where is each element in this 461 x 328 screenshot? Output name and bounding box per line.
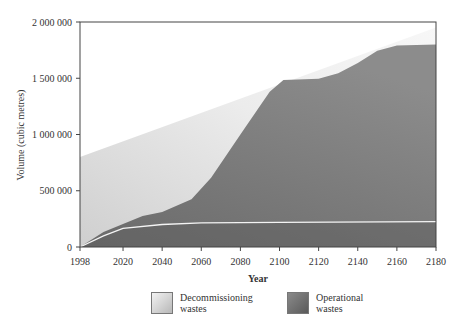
decommissioning-swatch — [151, 292, 173, 314]
legend-label-line1: Operational — [316, 292, 396, 303]
x-axis: 1998202020402060208021002120214021602180 — [70, 247, 446, 267]
y-tick-label: 500 000 — [40, 185, 73, 196]
legend-label-line2: wastes — [180, 303, 260, 314]
y-tick-label: 1 500 000 — [32, 73, 72, 84]
legend-label-line1: Decommissioning — [180, 292, 260, 303]
y-tick-label: 1 000 000 — [32, 129, 72, 140]
x-tick-label: 2160 — [387, 256, 407, 267]
y-axis: 0500 0001 000 0001 500 0002 000 000 — [32, 17, 80, 253]
x-tick-label: 2140 — [348, 256, 368, 267]
legend: Decommissioning wastes Operational waste… — [0, 290, 461, 320]
x-tick-label: 2100 — [270, 256, 290, 267]
y-tick-label: 2 000 000 — [32, 17, 72, 28]
x-axis-title: Year — [248, 273, 269, 284]
x-tick-label: 2020 — [113, 256, 133, 267]
x-tick-label: 1998 — [70, 256, 90, 267]
y-tick-label: 0 — [67, 242, 72, 253]
x-tick-label: 2060 — [191, 256, 211, 267]
legend-label-operational: Operational wastes — [316, 292, 396, 314]
x-tick-label: 2080 — [230, 256, 250, 267]
x-tick-label: 2040 — [152, 256, 172, 267]
x-tick-label: 2180 — [426, 256, 446, 267]
operational-swatch — [287, 292, 309, 314]
legend-item-operational: Operational wastes — [287, 292, 396, 314]
legend-label-decommissioning: Decommissioning wastes — [180, 292, 260, 314]
area-chart: 0500 0001 000 0001 500 0002 000 000 1998… — [0, 0, 461, 290]
legend-label-line2: wastes — [316, 303, 396, 314]
legend-item-decommissioning: Decommissioning wastes — [151, 292, 260, 314]
plot-area — [80, 28, 436, 247]
x-tick-label: 2120 — [309, 256, 329, 267]
y-axis-title: Volume (cubic metres) — [15, 90, 27, 181]
